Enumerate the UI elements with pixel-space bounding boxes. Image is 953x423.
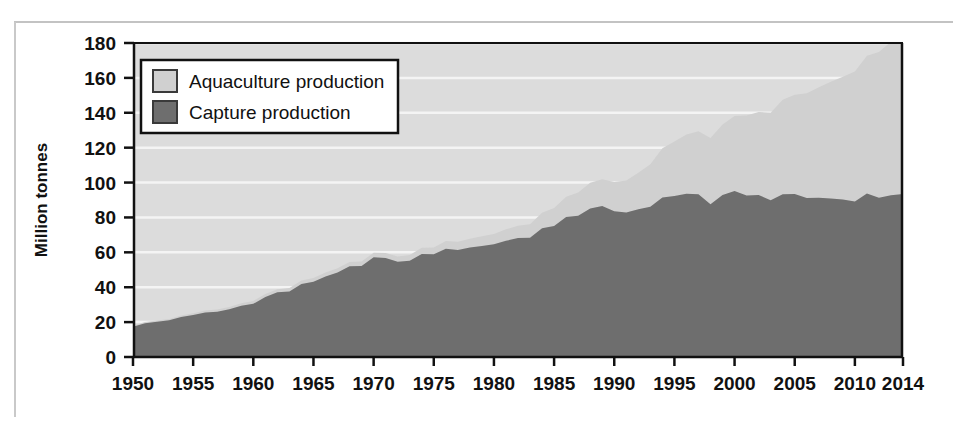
x-axis-tick-label: 1950: [112, 373, 154, 394]
y-axis-tick-label: 20: [95, 312, 116, 333]
x-axis-tick-label: 2014: [882, 373, 925, 394]
x-axis-tick-label: 2005: [774, 373, 817, 394]
x-axis-tick-label: 2010: [834, 373, 876, 394]
legend-label-capture: Capture production: [189, 102, 351, 123]
y-axis-tick-label: 0: [105, 347, 116, 368]
y-axis-tick-label: 120: [84, 138, 116, 159]
x-axis-tick-label: 1975: [413, 373, 456, 394]
y-axis-tick-label: 180: [84, 33, 116, 54]
y-axis-title: Million tonnes: [32, 143, 51, 257]
legend-label-aquaculture: Aquaculture production: [189, 71, 384, 92]
x-axis-tick-label: 1965: [292, 373, 335, 394]
x-axis-ticks: 1950195519601965197019751980198519901995…: [112, 357, 925, 394]
x-axis-tick-label: 1990: [593, 373, 635, 394]
x-axis-tick-label: 1995: [653, 373, 696, 394]
legend-swatch-capture: [153, 101, 177, 123]
y-axis-tick-label: 160: [84, 68, 116, 89]
y-axis-tick-label: 40: [95, 277, 116, 298]
x-axis-tick-label: 2000: [713, 373, 755, 394]
x-axis-tick-label: 1970: [352, 373, 394, 394]
x-axis-tick-label: 1955: [172, 373, 215, 394]
chart-legend: Aquaculture production Capture productio…: [141, 60, 398, 133]
y-axis-tick-label: 100: [84, 173, 116, 194]
x-axis-tick-label: 1980: [473, 373, 515, 394]
figure-container: 020406080100120140160180 195019551960196…: [0, 0, 953, 423]
stacked-area-chart: 020406080100120140160180 195019551960196…: [0, 0, 953, 423]
x-axis-tick-label: 1985: [533, 373, 576, 394]
y-axis-tick-label: 60: [95, 242, 116, 263]
y-axis-tick-label: 140: [84, 103, 116, 124]
y-axis-tick-label: 80: [95, 207, 116, 228]
legend-swatch-aquaculture: [153, 70, 177, 92]
x-axis-tick-label: 1960: [232, 373, 274, 394]
y-axis-ticks: 020406080100120140160180: [84, 33, 134, 368]
